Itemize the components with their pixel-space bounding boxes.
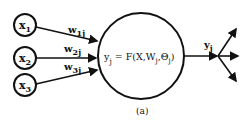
svg-text:x3: x3 [19,79,32,94]
svg-text:x2: x2 [19,52,31,67]
input-node-x1: x1 [14,14,36,36]
edge-x3 [36,70,97,84]
output-branch-down [218,56,236,81]
weight-label-w2j: w2j [63,43,81,57]
edge-x1 [36,27,97,41]
neuron-equation: yj = F(X,Wj,Θj) [103,51,174,66]
neuron-node: yj = F(X,Wj,Θj) [98,13,184,99]
output-branch-up [218,29,236,56]
figure-caption: (a) [136,106,148,116]
output-label: yj [203,39,213,53]
input-node-x2: x2 [14,47,36,69]
svg-text:x1: x1 [19,19,31,34]
neuron-diagram: x1 x2 x3 w1j w2j w3j yj = F(X,Wj,Θj) yj … [0,0,249,124]
input-node-x3: x3 [14,74,36,96]
weight-label-w1j: w1j [67,24,85,38]
weight-label-w3j: w3j [63,61,81,75]
